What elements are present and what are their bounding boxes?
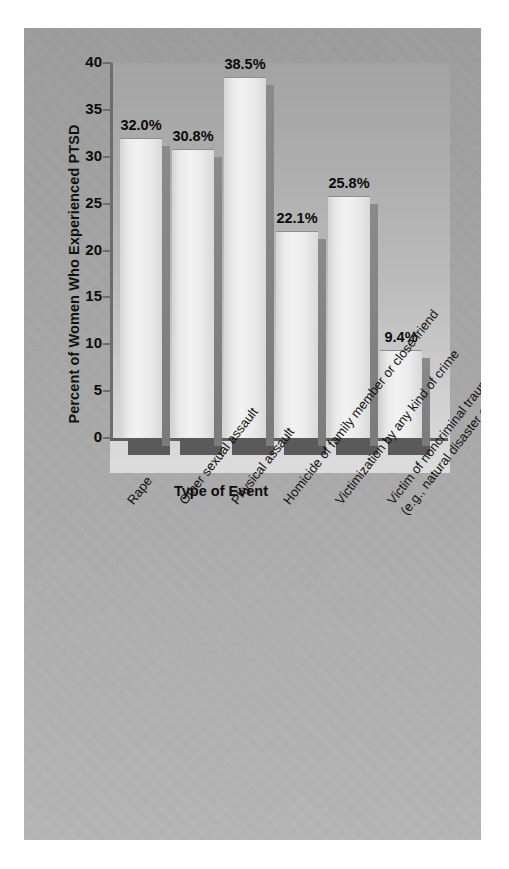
y-axis-tick-label: 0	[62, 428, 102, 445]
y-axis-tick-label: 15	[62, 287, 102, 304]
category-label-line: Rape	[124, 474, 155, 508]
bar	[172, 149, 214, 438]
bar	[276, 231, 318, 438]
y-axis-tick-label: 20	[62, 241, 102, 258]
bar-side-face	[162, 146, 170, 446]
bar-group: 22.1%	[276, 231, 318, 438]
bar-value-label: 30.8%	[172, 128, 213, 144]
y-axis-tick-labels: 4035302520151050	[56, 63, 102, 441]
y-axis-tick	[103, 156, 111, 158]
y-axis-tick-label: 35	[62, 100, 102, 117]
y-axis-tick-label: 30	[62, 147, 102, 164]
bar-value-label: 38.5%	[224, 56, 265, 72]
chart-panel: Percent of Women Who Experienced PTSD 40…	[24, 28, 481, 840]
y-axis-tick-label: 40	[62, 53, 102, 70]
y-axis-tick-label: 25	[62, 194, 102, 211]
y-axis-tick	[103, 62, 111, 64]
y-axis-tick-label: 10	[62, 334, 102, 351]
y-axis-tick-label: 5	[62, 381, 102, 398]
y-axis-tick	[103, 109, 111, 111]
bar	[224, 77, 266, 438]
bar-side-face	[214, 157, 222, 446]
y-axis-tick	[103, 203, 111, 205]
bar-side-face	[318, 239, 326, 446]
y-axis-tick	[103, 296, 111, 298]
bar-value-label: 25.8%	[328, 175, 369, 191]
bar-group: 30.8%	[172, 149, 214, 438]
y-axis-tick	[103, 343, 111, 345]
bar-side-face	[266, 85, 274, 446]
y-axis-tick	[103, 390, 111, 392]
bar	[120, 138, 162, 438]
y-axis-tick	[103, 250, 111, 252]
bar-group: 38.5%	[224, 77, 266, 438]
bar-value-label: 32.0%	[120, 117, 161, 133]
x-axis-category-label: Rape	[124, 474, 156, 509]
bar-value-label: 22.1%	[276, 210, 317, 226]
y-axis-tick	[103, 437, 111, 439]
bar-group: 32.0%	[120, 138, 162, 438]
bar-side-face	[370, 204, 378, 446]
